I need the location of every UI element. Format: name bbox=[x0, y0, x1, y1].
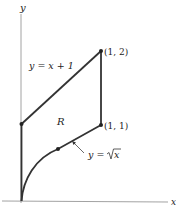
y-axis-label: y bbox=[19, 2, 26, 13]
point-on-sqrt-curve bbox=[56, 147, 60, 151]
curve-y-equals-sqrt-x bbox=[22, 125, 102, 201]
label-sqrt-radicand: x bbox=[114, 149, 120, 160]
label-point-1-2: (1, 2) bbox=[104, 47, 128, 57]
point-1-1 bbox=[99, 123, 103, 127]
point-0-1 bbox=[20, 122, 24, 126]
leader-line bbox=[74, 143, 84, 153]
x-axis bbox=[2, 201, 168, 202]
label-point-1-1: (1, 1) bbox=[104, 121, 128, 131]
region-label: R bbox=[56, 116, 65, 127]
label-sqrt-curve: y = x bbox=[87, 149, 121, 160]
point-1-2 bbox=[99, 49, 103, 53]
x-axis-label: x bbox=[171, 197, 176, 207]
label-upper-line: y = x + 1 bbox=[28, 60, 74, 71]
region-diagram: y x (1, 2) (1, 1) y = x + 1 R y = x bbox=[0, 0, 176, 214]
label-sqrt-prefix: y = bbox=[87, 149, 104, 160]
